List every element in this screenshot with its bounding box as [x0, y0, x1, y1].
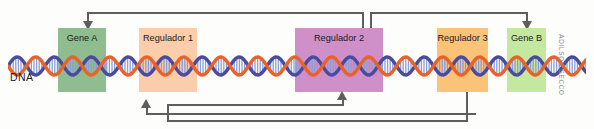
- connector-regulador3-to-regulador2-vertical-source: [466, 92, 468, 121]
- connector-regulador3-to-regulador2-horizontal: [167, 120, 468, 122]
- arrow-up-icon-regulador1: [141, 99, 151, 108]
- dna-label: DNA: [10, 71, 33, 83]
- arrow-up-icon-regulador2: [337, 91, 347, 100]
- region-label-gene-a: Gene A: [58, 34, 106, 43]
- region-label-regulador-3: Regulador 3: [437, 34, 488, 43]
- connector-regulador2-to-geneB-horizontal: [370, 12, 528, 14]
- region-label-gene-b: Gene B: [507, 34, 546, 43]
- credit-text: ADILSON SECCO: [559, 34, 566, 96]
- connector-geneA-to-regulador1-vertical-target: [146, 108, 148, 115]
- connector-regulador2-to-geneA-horizontal: [88, 12, 364, 14]
- region-label-regulador-1: Regulador 1: [139, 34, 197, 43]
- connector-regulador2-to-geneA-vertical-source: [362, 12, 364, 29]
- dna-double-helix: [8, 52, 586, 80]
- connector-regulador3-to-regulador2-branch: [167, 104, 344, 106]
- region-label-regulador-2: Regulador 2: [295, 34, 383, 43]
- connector-regulador2-to-geneB-vertical-source: [370, 12, 372, 29]
- connector-regulador3-to-regulador2-vertical-target: [342, 100, 344, 106]
- connector-regulador3-to-regulador2-vertical-mid: [167, 104, 169, 121]
- gene-regulation-figure: Gene A Regulador 1 Regulador 2 Regulador…: [0, 0, 594, 129]
- connector-geneA-to-regulador1-horizontal: [146, 113, 476, 115]
